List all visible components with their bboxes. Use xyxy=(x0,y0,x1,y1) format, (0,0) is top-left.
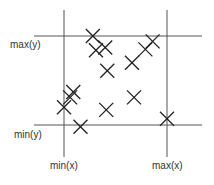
min-x-label: min(x) xyxy=(50,160,78,171)
min-y-label: min(y) xyxy=(14,129,42,140)
point-marker xyxy=(138,42,152,56)
point-marker xyxy=(63,90,77,104)
bounding-lines xyxy=(34,10,202,157)
point-marker xyxy=(99,103,113,117)
bounding-box-diagram: max(y) min(y) min(x) max(x) xyxy=(0,0,214,185)
point-marker xyxy=(100,64,114,78)
point-marker xyxy=(125,56,139,70)
point-marker xyxy=(89,43,103,57)
max-x-label: max(x) xyxy=(152,160,183,171)
point-marker xyxy=(73,120,87,134)
max-y-label: max(y) xyxy=(10,39,41,50)
point-marker xyxy=(66,85,80,99)
point-markers xyxy=(57,29,174,134)
point-marker xyxy=(127,90,141,104)
point-marker xyxy=(98,41,112,55)
